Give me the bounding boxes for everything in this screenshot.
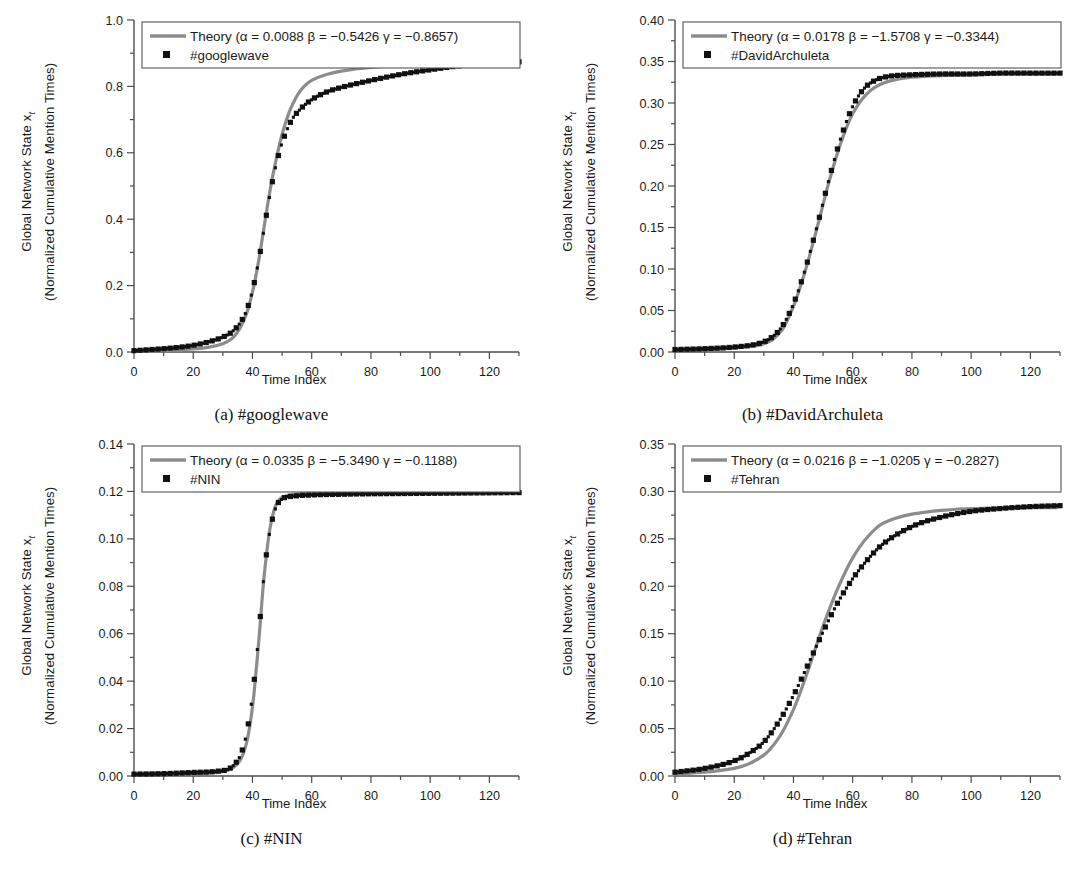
y-axis-label-d: Global Network State xt (Normalized Cumu… [559,436,599,776]
data-marker-series-emphasis [672,503,1062,775]
plot-area-c: Global Network State xt (Normalized Cumu… [18,436,528,828]
y-tick-label: 0.30 [639,97,664,111]
data-marker-series [673,72,1061,352]
legend-data-label: #NIN [190,472,221,487]
y-axis-label-subscript: t [27,112,37,115]
legend-data-label: #Tehran [731,472,779,487]
legend-data-label: #googlewave [190,48,269,63]
data-marker-series-emphasis [131,59,521,353]
data-marker-series-emphasis [672,70,1062,352]
panel-caption-a: (a) #googlewave [0,405,543,425]
y-tick-label: 0.20 [639,180,664,194]
plot-area-a: Global Network State xt (Normalized Cumu… [18,12,528,404]
legend-data-swatch [704,51,711,58]
chart-svg-c: 0204060801001200.000.020.040.060.080.100… [78,436,528,828]
panel-caption-c: (c) #NIN [0,829,543,849]
panel-b: Global Network State xt (Normalized Cumu… [541,0,1084,444]
y-tick-label: 0.00 [639,770,664,784]
y-axis-label-line2: (Normalized Cumulative Mention Times) [41,436,58,776]
y-tick-label: 0.4 [105,213,123,227]
chart-canvas-a: 0204060801001200.00.20.40.60.81.0Theory … [78,12,528,404]
y-tick-label: 0.6 [105,146,123,160]
chart-svg-d: 0204060801001200.000.050.100.150.200.250… [619,436,1069,828]
data-marker-series [132,60,520,352]
y-tick-label: 0.06 [98,627,123,641]
legend-theory-label: Theory (α = 0.0335 β = −5.3490 γ = −0.11… [190,453,457,468]
panel-c: Global Network State xt (Normalized Cumu… [0,424,543,868]
y-axis-label-b: Global Network State xt (Normalized Cumu… [559,12,599,352]
y-tick-label: 0.05 [639,722,664,736]
y-axis-label-line2: (Normalized Cumulative Mention Times) [582,12,599,352]
legend-theory-label: Theory (α = 0.0178 β = −1.5708 γ = −0.33… [731,29,999,44]
y-tick-label: 0.35 [639,438,664,452]
plot-area-b: Global Network State xt (Normalized Cumu… [559,12,1069,404]
y-tick-label: 0.04 [98,675,123,689]
y-tick-label: 0.12 [98,485,123,499]
legend-theory-label: Theory (α = 0.0216 β = −1.0205 γ = −0.28… [731,453,999,468]
legend-data-swatch [163,51,170,58]
y-axis-label-line1: Global Network State x [19,115,34,252]
theory-curve [675,74,1057,350]
chart-svg-b: 0204060801001200.000.050.100.150.200.250… [619,12,1069,404]
theory-curve [134,62,516,352]
y-tick-label: 0.05 [639,304,664,318]
y-axis-label-subscript: t [568,536,578,539]
plot-area-d: Global Network State xt (Normalized Cumu… [559,436,1069,828]
y-tick-label: 0.14 [98,438,123,452]
data-marker-series [132,491,520,776]
y-axis-label-a: Global Network State xt (Normalized Cumu… [18,12,58,352]
theory-curve [134,492,516,775]
y-axis-label-line1: Global Network State x [560,115,575,252]
y-tick-label: 1.0 [105,14,123,28]
y-tick-label: 0.8 [105,80,123,94]
panel-a: Global Network State xt (Normalized Cumu… [0,0,543,444]
y-axis-label-subscript: t [27,536,37,539]
y-tick-label: 0.20 [639,580,664,594]
y-tick-label: 0.00 [98,770,123,784]
legend-theory-label: Theory (α = 0.0088 β = −0.5426 γ = −0.86… [190,29,458,44]
y-tick-label: 0.25 [639,532,664,546]
y-tick-label: 0.35 [639,55,664,69]
x-axis-label-d: Time Index [619,796,1051,811]
y-axis-label-line1: Global Network State x [560,539,575,676]
x-axis-label-a: Time Index [78,372,510,387]
legend-data-swatch [163,475,170,482]
y-axis-label-line2: (Normalized Cumulative Mention Times) [41,12,58,352]
y-tick-label: 0.02 [98,722,123,736]
y-tick-label: 0.08 [98,580,123,594]
figure-four-panel-sigmoid-fits: Global Network State xt (Normalized Cumu… [0,0,1087,889]
panel-caption-b: (b) #DavidArchuleta [541,405,1084,425]
chart-svg-a: 0204060801001200.00.20.40.60.81.0Theory … [78,12,528,404]
panel-caption-d: (d) #Tehran [541,829,1084,849]
y-tick-label: 0.10 [639,263,664,277]
panel-d: Global Network State xt (Normalized Cumu… [541,424,1084,868]
data-marker-series [673,504,1061,774]
y-tick-label: 0.0 [105,346,123,360]
y-tick-label: 0.30 [639,485,664,499]
y-axis-label-line2: (Normalized Cumulative Mention Times) [582,436,599,776]
chart-canvas-d: 0204060801001200.000.050.100.150.200.250… [619,436,1069,828]
x-axis-label-c: Time Index [78,796,510,811]
y-axis-label-line1: Global Network State x [19,539,34,676]
y-tick-label: 0.10 [98,532,123,546]
y-tick-label: 0.10 [639,675,664,689]
y-axis-label-c: Global Network State xt (Normalized Cumu… [18,436,58,776]
legend-data-label: #DavidArchuleta [731,48,830,63]
chart-canvas-b: 0204060801001200.000.050.100.150.200.250… [619,12,1069,404]
x-axis-label-b: Time Index [619,372,1051,387]
y-tick-label: 0.00 [639,346,664,360]
y-tick-label: 0.15 [639,221,664,235]
y-tick-label: 0.25 [639,138,664,152]
chart-canvas-c: 0204060801001200.000.020.040.060.080.100… [78,436,528,828]
legend-data-swatch [704,475,711,482]
data-marker-series-emphasis [131,490,521,777]
theory-curve [675,508,1057,775]
y-tick-label: 0.15 [639,627,664,641]
y-tick-label: 0.40 [639,14,664,28]
y-axis-label-subscript: t [568,112,578,115]
y-tick-label: 0.2 [105,279,123,293]
